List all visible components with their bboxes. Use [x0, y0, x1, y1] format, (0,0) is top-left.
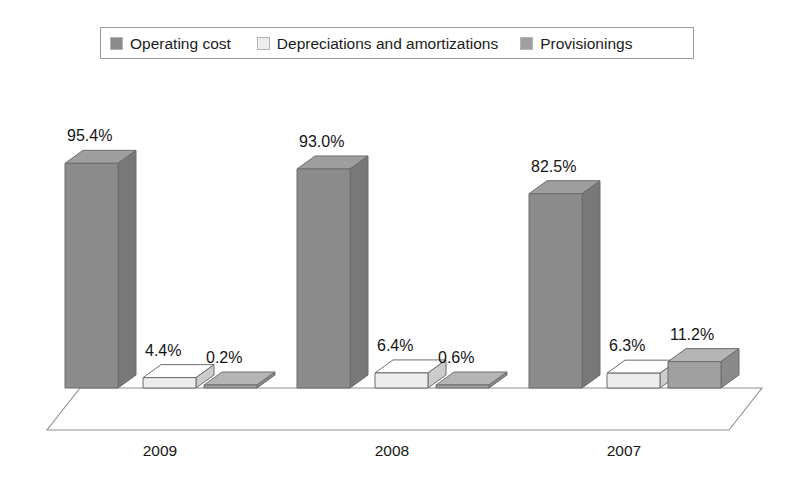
- legend-swatch-icon: [520, 37, 533, 50]
- category-label-2009: 2009: [120, 443, 200, 459]
- bar-chart-figure: Operating cost Depreciations and amortiz…: [0, 0, 791, 485]
- legend-item-label: Operating cost: [130, 36, 231, 51]
- legend-item-provisionings[interactable]: Provisionings: [520, 36, 632, 51]
- chart-legend: Operating cost Depreciations and amortiz…: [100, 27, 694, 59]
- category-label-2007: 2007: [584, 443, 664, 459]
- legend-swatch-icon: [257, 37, 270, 50]
- legend-item-label: Provisionings: [540, 36, 632, 51]
- bar-front-face: [668, 362, 721, 388]
- legend-item-operating-cost[interactable]: Operating cost: [110, 36, 231, 51]
- plot-area: 95.4%4.4%0.2%93.0%6.4%0.6%82.5%6.3%11.2%…: [0, 60, 791, 485]
- legend-item-label: Depreciations and amortizations: [277, 36, 498, 51]
- legend-swatch-icon: [110, 37, 123, 50]
- legend-item-depreciations-and-amortizations[interactable]: Depreciations and amortizations: [257, 36, 498, 51]
- category-label-2008: 2008: [352, 443, 432, 459]
- bar-value-label-provisionings-2007: 11.2%: [670, 327, 714, 343]
